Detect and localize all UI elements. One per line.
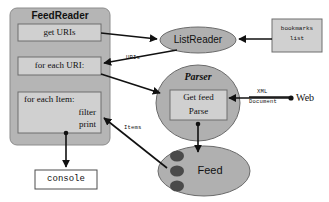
for-each-item-box[interactable] [18,92,101,133]
feed-item-dot-3 [170,181,184,192]
for-each-uri-box[interactable] [18,57,101,75]
console-box[interactable] [35,170,97,189]
listreader-ellipse[interactable] [160,27,236,53]
edge-feed-to-for-each-item [104,118,167,168]
feed-item-dot-1 [170,151,184,162]
bookmarks-list-box[interactable] [272,19,322,52]
diagram-canvas: FeedReader get URIs for each URI: for ea… [0,0,329,202]
edge-for-each-item-origin-dot [64,131,69,136]
feed-item-dot-2 [170,166,184,177]
edge-listreader-to-for-each-uri [104,50,177,63]
get-feed-parse-box[interactable] [170,90,227,120]
web-endpoint-dot [288,95,293,100]
edge-parser-to-feed-origin-dot [196,122,201,127]
get-uris-box[interactable] [18,24,101,41]
diagram-graphics [0,0,329,202]
